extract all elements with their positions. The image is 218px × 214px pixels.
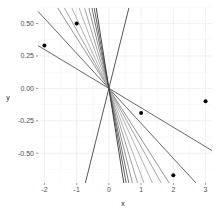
x-axis-label: x	[121, 200, 125, 207]
fitted-line	[72, 8, 153, 183]
x-tick-label: -1	[74, 186, 80, 193]
fitted-line	[85, 8, 129, 183]
x-tick-label: -2	[41, 186, 47, 193]
x-axis-ticks: -2-10123	[41, 183, 207, 193]
y-tick-label: 0.00	[20, 85, 34, 92]
x-tick-label: 0	[107, 186, 111, 193]
x-tick-label: 1	[139, 186, 143, 193]
fitted-line	[64, 8, 161, 183]
y-tick-label: 0.25	[20, 52, 34, 59]
y-axis-label: y	[6, 94, 10, 102]
chart: -2-10123 0.500.250.00-0.25-0.50 x y	[0, 0, 218, 214]
y-axis-ticks: 0.500.250.00-0.25-0.50	[18, 20, 38, 157]
y-tick-label: 0.50	[20, 20, 34, 27]
data-point	[204, 99, 208, 103]
data-point	[42, 44, 46, 48]
data-point	[139, 111, 143, 115]
fitted-line	[58, 8, 170, 183]
fitted-line	[38, 11, 196, 183]
fitted-line	[79, 8, 144, 183]
y-tick-label: -0.50	[18, 150, 34, 157]
x-tick-label: 3	[204, 186, 208, 193]
fitted-line	[96, 8, 124, 183]
data-point	[75, 22, 79, 26]
data-point	[171, 173, 175, 177]
grid	[38, 7, 212, 183]
y-tick-label: -0.25	[18, 117, 34, 124]
x-tick-label: 2	[171, 186, 175, 193]
